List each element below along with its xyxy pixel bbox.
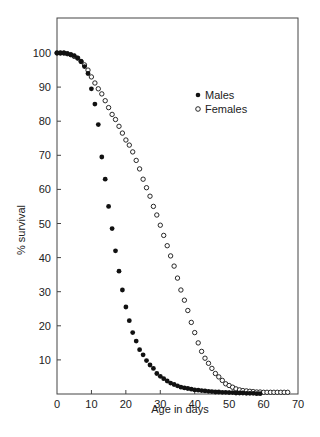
x-tick-label: 60: [257, 398, 269, 410]
data-point: [134, 339, 139, 344]
data-point: [151, 204, 155, 208]
data-point: [179, 288, 183, 292]
data-point: [120, 131, 124, 135]
x-tick-label: 70: [292, 398, 304, 410]
data-point: [110, 112, 114, 116]
y-tick-label: 20: [39, 320, 51, 332]
data-point: [148, 194, 152, 198]
y-tick-label: 100: [33, 47, 51, 59]
data-point: [137, 347, 142, 352]
data-point: [158, 223, 162, 227]
x-tick-label: 0: [54, 398, 60, 410]
data-point: [89, 86, 94, 91]
data-point: [93, 102, 98, 107]
data-point: [182, 298, 186, 302]
survival-chart: 102030405060708090100 010203040506070 Ag…: [0, 0, 320, 437]
data-point: [137, 167, 141, 171]
data-point: [206, 361, 210, 365]
y-tick-label: 60: [39, 183, 51, 195]
data-point: [117, 269, 122, 274]
data-point: [210, 366, 214, 370]
plot-frame: [57, 18, 298, 394]
y-tick-label: 50: [39, 218, 51, 230]
y-tick-label: 30: [39, 286, 51, 298]
data-point: [199, 349, 203, 353]
legend-marker-females: [196, 107, 201, 112]
x-tick-label: 50: [223, 398, 235, 410]
data-point: [103, 99, 107, 103]
data-point: [144, 186, 148, 190]
legend: Males Females: [196, 89, 248, 115]
y-tick-label: 80: [39, 115, 51, 127]
x-axis-title: Age in days: [151, 403, 209, 415]
data-point: [162, 233, 166, 237]
data-point: [79, 59, 84, 64]
data-point: [110, 226, 115, 231]
data-point: [89, 75, 93, 79]
data-point: [141, 352, 146, 357]
data-point: [93, 81, 97, 85]
data-point: [217, 375, 221, 379]
y-tick-label: 70: [39, 149, 51, 161]
data-point: [100, 92, 104, 96]
data-point: [82, 64, 87, 69]
data-point: [106, 204, 111, 209]
y-tick-label: 90: [39, 81, 51, 93]
data-point: [148, 363, 153, 368]
data-point: [134, 158, 138, 162]
y-tick-label: 10: [39, 354, 51, 366]
data-point: [175, 276, 179, 280]
y-axis-title: % survival: [15, 205, 27, 255]
data-point: [203, 356, 207, 360]
data-point: [120, 288, 125, 293]
data-point: [186, 308, 190, 312]
data-point: [117, 124, 121, 128]
data-point: [113, 117, 117, 121]
legend-label-females: Females: [205, 103, 248, 115]
data-point: [75, 56, 80, 61]
legend-marker-males: [196, 93, 201, 98]
data-point: [151, 366, 156, 371]
data-point: [172, 264, 176, 268]
legend-label-males: Males: [205, 89, 235, 101]
y-tick-label: 40: [39, 252, 51, 264]
data-point: [124, 305, 129, 310]
data-point: [99, 155, 104, 160]
data-point: [127, 143, 131, 147]
series-females: [55, 51, 290, 395]
data-point: [113, 248, 118, 253]
data-point: [189, 320, 193, 324]
data-point: [258, 391, 263, 396]
data-point: [124, 138, 128, 142]
data-point: [96, 122, 101, 127]
data-point: [141, 177, 145, 181]
data-point: [144, 358, 149, 363]
data-point: [103, 177, 108, 182]
x-tick-label: 20: [120, 398, 132, 410]
data-point: [130, 330, 135, 335]
data-point: [127, 318, 132, 323]
data-point: [168, 254, 172, 258]
data-point: [86, 71, 91, 76]
data-point: [193, 330, 197, 334]
data-point: [165, 244, 169, 248]
data-point: [131, 150, 135, 154]
data-point: [155, 213, 159, 217]
x-tick-label: 10: [85, 398, 97, 410]
data-point: [96, 87, 100, 91]
data-point: [106, 105, 110, 109]
data-point: [196, 341, 200, 345]
data-point: [286, 390, 290, 394]
